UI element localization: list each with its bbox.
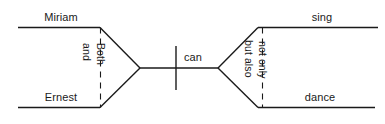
verb-label: can	[184, 51, 214, 63]
sentence-diagram: Miriam Ernest can sing dance and Both bu…	[0, 0, 385, 124]
subject-lower-arm	[100, 68, 140, 108]
predicate-conjunction-left-label: but also	[243, 40, 254, 78]
predicate-lower-label: dance	[266, 91, 374, 103]
predicate-upper-label: sing	[268, 11, 376, 23]
subject-upper-label: Miriam	[22, 11, 100, 23]
subject-conjunction-left-label: and	[81, 43, 92, 61]
predicate-conjunction-right-label: not only	[257, 41, 268, 79]
subject-conjunction-right-label: Both	[95, 43, 106, 65]
subject-lower-label: Ernest	[22, 91, 100, 103]
